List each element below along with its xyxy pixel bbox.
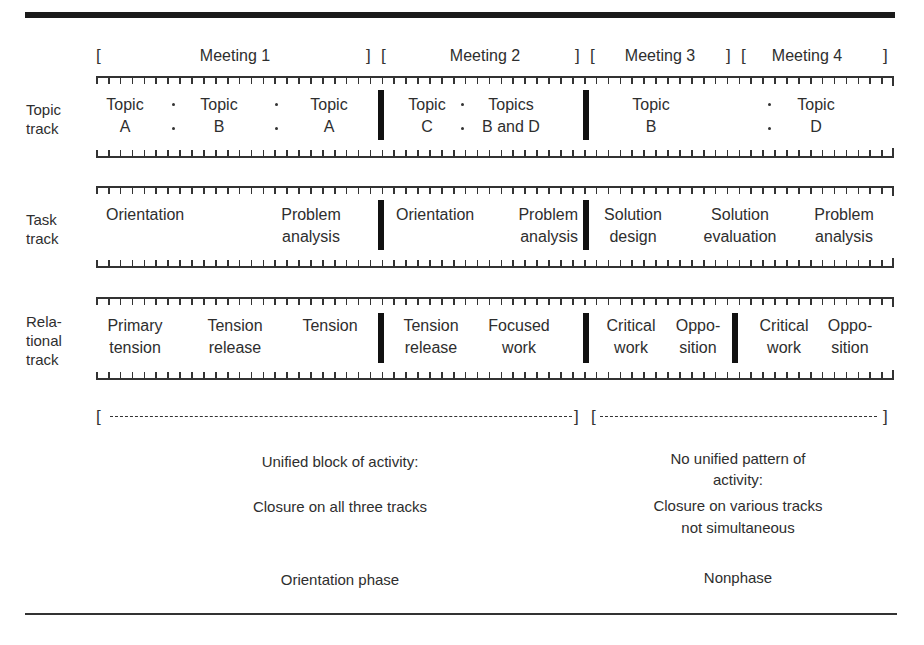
relational-cell-6: Criticalwork (599, 315, 663, 359)
topic-separator-dot (275, 127, 278, 130)
topic-separator-dot (768, 103, 771, 106)
meeting-4-label: Meeting 4 (752, 46, 862, 66)
meeting-divider (378, 200, 384, 250)
topic-track-top-ruler (96, 76, 894, 86)
meeting-3-close-bracket: ] (726, 46, 731, 66)
relational-track: Primarytension Tensionrelease Tension Te… (96, 297, 894, 380)
relational-cell-5: Focusedwork (480, 315, 558, 359)
topic-track-bottom-ruler (96, 148, 894, 158)
orientation-summary-line2: Closure on all three tracks (190, 497, 490, 516)
topic-separator-dot (768, 127, 771, 130)
topic-track-label-line1: Topic (26, 100, 61, 119)
topic-cell-2: TopicB (194, 94, 244, 138)
task-cell-1: Orientation (106, 204, 194, 226)
topic-separator-dot (461, 103, 464, 106)
meeting-4-close-bracket: ] (883, 46, 888, 66)
relational-cell-2: Tensionrelease (202, 315, 268, 359)
topic-cell-7: TopicD (790, 94, 842, 138)
meeting-3-label: Meeting 3 (605, 46, 715, 66)
topic-cell-1: TopicA (100, 94, 150, 138)
relational-track-label-line2: tional (26, 331, 62, 350)
relational-cell-4: Tensionrelease (396, 315, 466, 359)
task-cell-3: Orientation (396, 204, 488, 226)
relational-track-bottom-ruler (96, 370, 894, 380)
meeting-divider (583, 90, 589, 140)
topic-track-label-line2: track (26, 119, 61, 138)
relational-cell-7: Oppo-sition (668, 315, 728, 359)
meeting-divider (378, 90, 384, 140)
nonphase-close-bracket: ] (883, 407, 888, 427)
topic-track-label: Topic track (26, 100, 61, 138)
orientation-summary-line1: Unified block of activity: (190, 452, 490, 471)
orientation-phase-dash-line (110, 416, 572, 417)
relational-cell-8: Criticalwork (752, 315, 816, 359)
task-cell-4: Problemanalysis (502, 204, 578, 248)
meeting-2-open-bracket: [ (381, 46, 386, 66)
topic-track: TopicA TopicB TopicA TopicC TopicsB and … (96, 76, 894, 158)
task-track: Orientation Problemanalysis Orientation … (96, 186, 894, 268)
topic-cell-6: TopicB (626, 94, 676, 138)
meeting-1-close-bracket: ] (366, 46, 371, 66)
meeting-divider (378, 313, 384, 363)
task-track-label: Task track (26, 210, 59, 248)
relational-cell-1: Primarytension (104, 315, 166, 359)
relational-cell-9: Oppo-sition (820, 315, 880, 359)
task-cell-6: Solutionevaluation (692, 204, 788, 248)
task-cell-7: Problemanalysis (806, 204, 882, 248)
nonphase-name: Nonphase (608, 568, 868, 587)
nonphase-summary-line4: not simultaneous (608, 518, 868, 537)
top-rule (25, 12, 895, 18)
relational-track-label: Rela- tional track (26, 312, 62, 369)
task-track-top-ruler (96, 186, 894, 196)
nonphase-summary-line1: No unified pattern of (608, 449, 868, 468)
topic-separator-dot (172, 127, 175, 130)
meeting-2-close-bracket: ] (575, 46, 580, 66)
topic-cell-5: TopicsB and D (471, 94, 551, 138)
orientation-phase-name: Orientation phase (190, 570, 490, 589)
meeting-divider (732, 313, 738, 363)
bottom-rule (25, 613, 897, 615)
task-cell-5: Solutiondesign (596, 204, 670, 248)
task-track-label-line1: Task (26, 210, 59, 229)
relational-cell-3: Tension (296, 315, 364, 337)
meeting-2-label: Meeting 2 (410, 46, 560, 66)
topic-separator-dot (461, 127, 464, 130)
nonphase-dash-line (600, 416, 877, 417)
topic-separator-dot (172, 103, 175, 106)
topic-cell-4: TopicC (402, 94, 452, 138)
relational-track-top-ruler (96, 297, 894, 307)
meeting-4-open-bracket: [ (741, 46, 746, 66)
relational-track-label-line1: Rela- (26, 312, 62, 331)
meeting-divider (583, 200, 589, 250)
nonphase-summary-line2: activity: (608, 470, 868, 489)
task-track-label-line2: track (26, 229, 59, 248)
nonphase-open-bracket: [ (591, 407, 596, 427)
meeting-divider (583, 313, 589, 363)
orientation-phase-close-bracket: ] (574, 407, 579, 427)
task-cell-2: Problemanalysis (273, 204, 349, 248)
orientation-phase-open-bracket: [ (96, 407, 101, 427)
topic-separator-dot (275, 103, 278, 106)
nonphase-summary-line3: Closure on various tracks (608, 496, 868, 515)
meeting-1-label: Meeting 1 (160, 46, 310, 66)
meeting-1-open-bracket: [ (96, 46, 101, 66)
topic-cell-3: TopicA (304, 94, 354, 138)
relational-track-label-line3: track (26, 350, 62, 369)
meeting-3-open-bracket: [ (590, 46, 595, 66)
task-track-bottom-ruler (96, 258, 894, 268)
